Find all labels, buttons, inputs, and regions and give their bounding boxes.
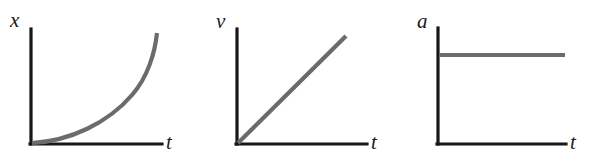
position-curve [32,33,157,143]
x-axis-label-velocity: t [371,130,378,154]
x-axis-label-position: t [166,130,173,154]
y-axis-label-acceleration: a [417,9,428,33]
velocity-time-graph: v t [196,0,392,159]
position-time-graph: x t [0,0,190,159]
acceleration-time-graph: a t [400,0,592,159]
y-axis-label-velocity: v [216,9,226,33]
y-axis-label-position: x [9,8,20,32]
x-axis-label-acceleration: t [570,130,577,154]
velocity-line [238,36,346,143]
kinematics-graph-figure: x t v t a t [0,0,592,159]
